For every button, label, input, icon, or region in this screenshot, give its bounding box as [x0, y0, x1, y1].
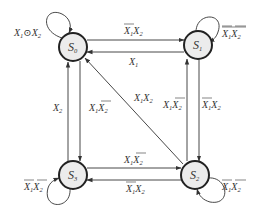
svg-text:X1X2: X1X2: [201, 99, 221, 111]
label-s1-s2: X1X2: [201, 98, 221, 111]
label-s1-s0: X1: [128, 56, 138, 68]
label-s2-s0: X1X2: [133, 92, 153, 104]
svg-text:X1X2: X1X2: [162, 99, 182, 111]
svg-text:X1⊙X2: X1⊙X2: [13, 27, 42, 39]
label-s0-s3: X1X2: [88, 101, 111, 114]
svg-text:X1X2: X1X2: [88, 102, 108, 114]
svg-text:X2: X2: [52, 102, 63, 114]
label-s3-loop: X1X2: [23, 180, 47, 193]
svg-text:X1X2: X1X2: [23, 181, 43, 193]
svg-text:X1X2: X1X2: [133, 92, 153, 104]
label-s2-loop: X1X2: [221, 180, 246, 193]
state-diagram: S0 S1 S3 S2 X1⊙X2 X1X2 X1X2 X1X2 X1X2: [0, 0, 255, 213]
label-s1-loop: X1X2: [221, 26, 246, 40]
label-s2-s3: X1X2: [125, 182, 145, 195]
svg-text:X1: X1: [128, 56, 138, 68]
label-s0-loop: X1⊙X2: [13, 27, 42, 39]
svg-text:X1X2: X1X2: [221, 28, 241, 40]
svg-text:X1X2: X1X2: [123, 25, 143, 37]
svg-text:X1X2: X1X2: [221, 181, 241, 193]
label-s0-s1: X1X2: [123, 24, 143, 37]
svg-text:X1X2: X1X2: [123, 154, 143, 166]
svg-text:X1X2: X1X2: [125, 183, 145, 195]
state-s1: S1: [184, 31, 212, 59]
state-s2: S2: [181, 161, 209, 189]
label-s2-s1: X1X2: [162, 98, 185, 111]
label-s3-s0: X2: [52, 102, 63, 114]
state-s3: S3: [59, 161, 87, 189]
state-s0: S0: [59, 33, 87, 61]
label-s3-s2: X1X2: [123, 153, 146, 166]
